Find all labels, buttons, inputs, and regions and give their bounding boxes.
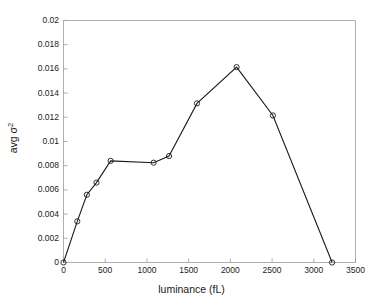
data-series-line — [64, 67, 333, 262]
y-axis-label-text: avg σ — [7, 127, 19, 153]
x-tick-label: 1000 — [127, 266, 167, 275]
axis-ticks — [64, 21, 356, 263]
data-point-markers — [61, 64, 335, 265]
y-tick-label: 0.014 — [8, 89, 59, 98]
x-tick-label: 3500 — [336, 266, 376, 275]
y-tick-label: 0.002 — [8, 234, 59, 243]
axes — [64, 21, 356, 263]
x-tick-label: 1500 — [169, 266, 209, 275]
y-tick-label: 0.018 — [8, 40, 59, 49]
x-tick-label: 500 — [85, 266, 125, 275]
y-axis-label: avg σ2 — [7, 103, 19, 173]
y-tick-label: 0.004 — [8, 210, 59, 219]
y-tick-label: 0.02 — [8, 16, 59, 25]
x-tick-label: 0 — [44, 266, 84, 275]
y-tick-label: 0.016 — [8, 64, 59, 73]
x-tick-label: 3000 — [294, 266, 334, 275]
x-tick-label: 2000 — [210, 266, 250, 275]
chart-figure: 00.0020.0040.0060.0080.010.0120.0140.016… — [0, 0, 383, 304]
y-tick-label: 0.006 — [8, 185, 59, 194]
x-axis-label: luminance (fL) — [0, 283, 383, 295]
x-tick-label: 2500 — [252, 266, 292, 275]
y-axis-label-exponent: 2 — [6, 123, 15, 127]
